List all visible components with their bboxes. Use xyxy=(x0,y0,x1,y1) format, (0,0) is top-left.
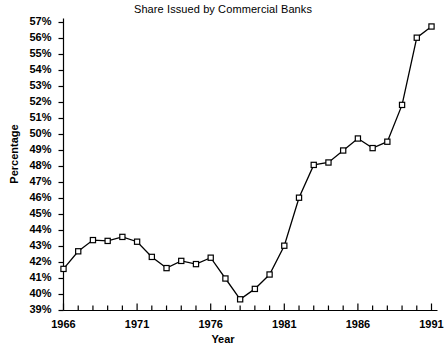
chart-container: Share Issued by Commercial Banks Percent… xyxy=(0,0,446,351)
axes xyxy=(59,19,438,311)
data-series-line xyxy=(64,27,432,300)
data-point-markers xyxy=(61,24,434,302)
plot-area xyxy=(0,0,446,351)
